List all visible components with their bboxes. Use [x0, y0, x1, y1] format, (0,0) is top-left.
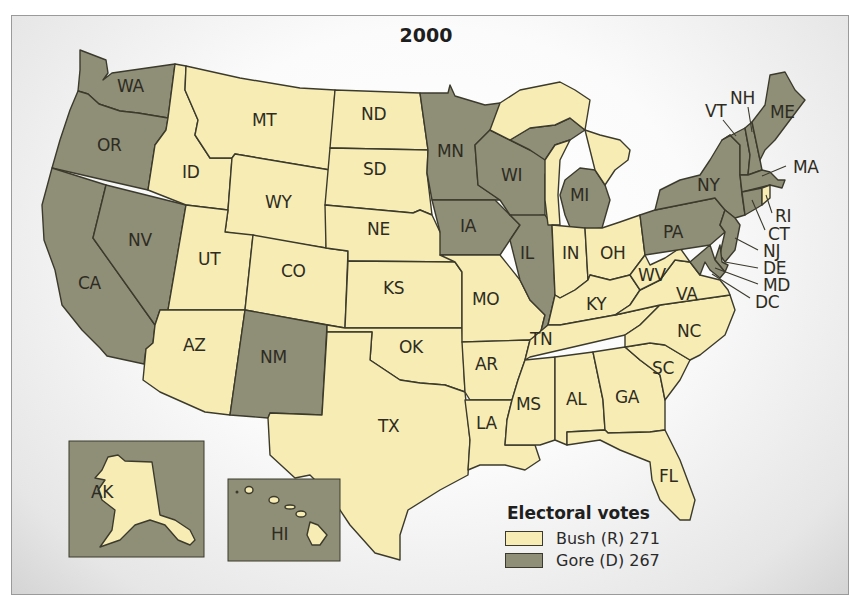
label-pa: PA — [663, 222, 684, 242]
legend-label-gore: Gore (D) 267 — [556, 551, 660, 570]
label-sd: SD — [363, 159, 386, 179]
island-kauai[interactable] — [245, 487, 253, 494]
label-dc: DC — [755, 292, 779, 312]
label-hi: HI — [271, 524, 288, 544]
label-mo: MO — [472, 289, 499, 309]
label-ky: KY — [586, 294, 607, 314]
island-niihau — [236, 491, 239, 494]
label-nv: NV — [128, 230, 152, 250]
label-ia: IA — [460, 216, 477, 236]
legend-title: Electoral votes — [507, 503, 660, 523]
label-or: OR — [97, 135, 122, 155]
label-wi: WI — [501, 165, 522, 185]
label-ms: MS — [516, 394, 541, 414]
label-ks: KS — [383, 278, 404, 298]
label-mn: MN — [437, 141, 464, 161]
label-mi: MI — [570, 185, 589, 205]
state-AZ[interactable] — [143, 310, 245, 415]
map-title: 2000 — [0, 24, 852, 46]
label-ar: AR — [475, 354, 498, 374]
leader-nj — [735, 238, 758, 250]
label-tn: TN — [529, 329, 553, 349]
label-me: ME — [770, 102, 795, 122]
label-sc: SC — [652, 358, 674, 378]
label-ok: OK — [399, 337, 424, 357]
label-ak: AK — [91, 482, 114, 502]
legend-swatch-bush — [505, 531, 543, 546]
label-mt: MT — [252, 110, 277, 130]
label-ma: MA — [793, 157, 819, 177]
label-tx: TX — [377, 416, 400, 436]
label-la: LA — [476, 413, 498, 433]
label-wv: WV — [638, 265, 667, 285]
legend-item-gore: Gore (D) 267 — [505, 549, 660, 571]
label-wy: WY — [265, 192, 293, 212]
state-CT[interactable] — [742, 188, 762, 215]
leader-de — [725, 262, 758, 268]
legend-label-bush: Bush (R) 271 — [556, 529, 660, 548]
legend-item-bush: Bush (R) 271 — [505, 527, 660, 549]
legend-swatch-gore — [505, 553, 543, 568]
island-maui[interactable] — [296, 511, 306, 517]
label-ca: CA — [78, 273, 102, 293]
island-molokai[interactable] — [285, 505, 295, 509]
island-oahu[interactable] — [269, 497, 279, 504]
label-va: VA — [676, 284, 698, 304]
label-ut: UT — [198, 249, 221, 269]
label-wa: WA — [117, 76, 145, 96]
leader-vt — [723, 120, 736, 136]
label-az: AZ — [183, 335, 206, 355]
label-id: ID — [182, 162, 200, 182]
label-al: AL — [566, 389, 587, 409]
label-nc: NC — [677, 321, 701, 341]
label-il: IL — [520, 243, 535, 263]
legend: Electoral votes Bush (R) 271 Gore (D) 26… — [505, 503, 660, 571]
label-ny: NY — [697, 175, 720, 195]
label-nd: ND — [361, 104, 386, 124]
label-ga: GA — [615, 387, 640, 407]
label-nm: NM — [260, 347, 287, 367]
us-electoral-map: WA OR CA NV ID MT WY UT CO AZ NM ND SD N… — [0, 0, 852, 604]
label-co: CO — [281, 261, 306, 281]
label-vt: VT — [705, 101, 727, 121]
label-ri: RI — [775, 206, 791, 226]
label-oh: OH — [600, 243, 626, 263]
label-in: IN — [562, 243, 579, 263]
label-fl: FL — [659, 466, 678, 486]
label-ne: NE — [367, 219, 390, 239]
label-nh: NH — [730, 88, 755, 108]
